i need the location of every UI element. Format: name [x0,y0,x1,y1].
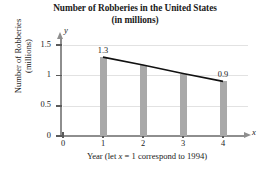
x-axis-caption-suffix: = 1 correspond to 1994) [122,151,207,161]
trend-line [0,0,270,173]
data-label-x4: 0.9 [210,71,236,79]
robberies-bar-chart: Number of Robberies in the United States… [0,0,270,173]
data-label-x1: 1.3 [90,47,116,55]
x-axis-caption: Year (let x = 1 correspond to 1994) [42,152,252,162]
x-axis-caption-prefix: Year (let [87,151,119,161]
